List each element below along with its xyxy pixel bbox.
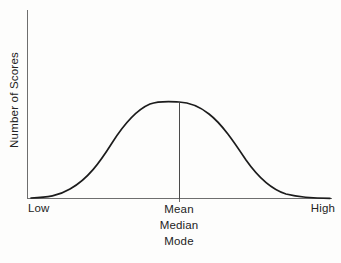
normal-curve <box>31 101 330 198</box>
bell-curve-figure: Number of Scores Low High Mean Median Mo… <box>0 0 341 263</box>
x-axis-label-median: Median <box>160 217 199 233</box>
x-axis-label-mode: Mode <box>164 233 193 249</box>
x-axis-label-high: High <box>311 202 335 214</box>
x-axis-center-labels: Mean Median Mode <box>139 201 219 249</box>
x-axis-label-low: Low <box>28 202 50 214</box>
y-axis-label: Number of Scores <box>8 52 20 148</box>
y-axis-label-container: Number of Scores <box>0 0 28 199</box>
x-axis-label-mean: Mean <box>164 201 193 217</box>
